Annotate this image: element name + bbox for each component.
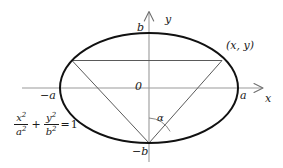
triangle-right-side <box>149 61 222 144</box>
point-label: (x, y) <box>226 40 254 51</box>
equation-term-2-denominator: b2 <box>44 124 59 137</box>
x-axis-label: x <box>265 93 271 104</box>
y-negative-tick-label: −b <box>132 146 148 157</box>
x-negative-tick-label: −a <box>40 90 56 101</box>
equation-result: 1 <box>71 119 78 130</box>
equation-term-1: x2 a2 <box>14 112 28 138</box>
equation-term-2: y2 b2 <box>44 112 59 138</box>
equation-term-1-numerator: x2 <box>14 112 28 124</box>
y-axis-label: y <box>165 14 171 25</box>
equation-term-2-numerator: y2 <box>44 112 58 124</box>
equation-operator: + <box>31 119 40 130</box>
y-positive-tick-label: b <box>137 22 144 33</box>
ellipse-equation: x2 a2 + y2 b2 = 1 <box>13 112 78 138</box>
equation-term-1-denominator: a2 <box>14 124 28 137</box>
ellipse-figure: y x b −b a −a 0 (x, y) α x2 a2 + y2 b2 =… <box>0 0 283 168</box>
origin-label: 0 <box>135 81 142 92</box>
angle-label-alpha: α <box>157 113 164 123</box>
x-positive-tick-label: a <box>240 90 247 101</box>
equation-equals-sign: = <box>61 119 70 130</box>
triangle-left-side <box>72 61 149 144</box>
